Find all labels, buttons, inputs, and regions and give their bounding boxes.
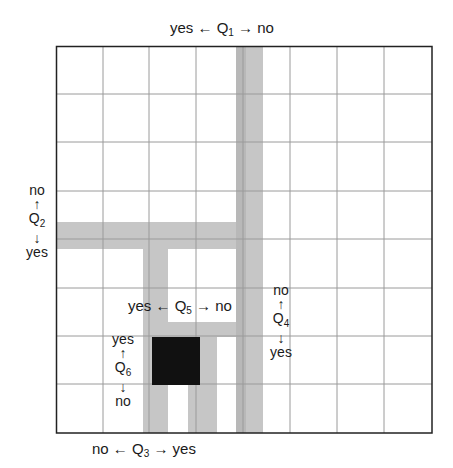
q2-yes: yes xyxy=(22,245,52,259)
arrow-up-icon: ↑ xyxy=(106,346,140,360)
q6-label: yes ↑ Q6 ↓ no xyxy=(106,332,140,408)
q4-yes: yes xyxy=(264,345,298,359)
arrow-right-icon: → xyxy=(196,297,211,314)
band-below-left xyxy=(152,385,168,433)
q4-label: no ↑ Q4 ↓ yes xyxy=(264,283,298,359)
q3-no: no xyxy=(92,440,109,457)
q4-no: no xyxy=(264,283,298,297)
band-below-mid xyxy=(188,385,200,433)
band-q5 xyxy=(143,322,237,337)
arrow-up-icon: ↑ xyxy=(22,197,52,211)
arrow-up-icon: ↑ xyxy=(264,297,298,311)
q1-no: no xyxy=(257,19,274,36)
q5-yes: yes xyxy=(128,297,151,314)
arrow-down-icon: ↓ xyxy=(22,231,52,245)
arrow-right-icon: → xyxy=(238,19,253,36)
q1-label: yes ← Q1 → no xyxy=(170,20,274,41)
q2-label: no ↑ Q2 ↓ yes xyxy=(22,183,52,259)
arrow-down-icon: ↓ xyxy=(106,380,140,394)
arrow-right-icon: → xyxy=(153,440,168,457)
band-q2 xyxy=(57,222,263,249)
arrow-left-icon: ← xyxy=(113,440,128,457)
binary-search-diagram: yes ← Q1 → no no ↑ Q2 ↓ yes yes ← Q5 → n… xyxy=(0,0,453,468)
q3-yes: yes xyxy=(173,440,196,457)
arrow-left-icon: ← xyxy=(156,297,171,314)
arrow-down-icon: ↓ xyxy=(264,331,298,345)
q1-yes: yes xyxy=(170,19,193,36)
q6-yes: yes xyxy=(106,332,140,346)
q2-no: no xyxy=(22,183,52,197)
target-cell xyxy=(152,337,200,385)
q5-label: yes ← Q5 → no xyxy=(128,298,232,319)
arrow-left-icon: ← xyxy=(198,19,213,36)
q6-no: no xyxy=(106,394,140,408)
grid-figure xyxy=(0,0,453,468)
q5-no: no xyxy=(215,297,232,314)
band-q6-right xyxy=(200,337,217,433)
band-q1-shade xyxy=(236,47,246,433)
q3-label: no ← Q3 → yes xyxy=(92,441,196,462)
